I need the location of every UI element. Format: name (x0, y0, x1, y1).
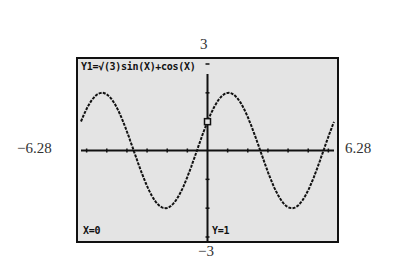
ymax-label: 3 (200, 36, 208, 53)
equation-text: Y1=√(3)sin(X)+cos(X) (81, 61, 195, 72)
graph-plot (78, 59, 337, 241)
x-readout: X=0 (83, 225, 100, 236)
xmax-label: 6.28 (345, 140, 371, 157)
xmin-label: −6.28 (17, 140, 52, 157)
ymin-label: −3 (198, 243, 214, 260)
y-readout: Y=1 (212, 225, 229, 236)
trace-cursor (205, 119, 211, 125)
calculator-screen: Y1=√(3)sin(X)+cos(X) X=0 Y=1 (76, 57, 339, 243)
